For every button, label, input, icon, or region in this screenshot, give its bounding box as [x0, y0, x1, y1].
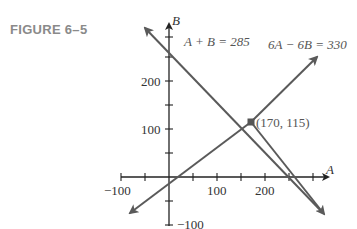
- line-a-plus-b-end: [251, 122, 324, 214]
- x-tick-label-100: 100: [207, 183, 227, 198]
- intersection-label: (170, 115): [256, 115, 310, 130]
- x-tick-label-neg100: −100: [104, 183, 131, 198]
- chart-plot: −100 100 200 A 200 100 −100 B (170, 115)…: [0, 0, 357, 229]
- line1-label: A + B = 285: [183, 34, 250, 49]
- x-axis-label: A: [325, 162, 334, 177]
- x-tick-label-200: 200: [255, 183, 275, 198]
- y-tick-label-neg100: −100: [177, 217, 204, 229]
- line2-label: 6A − 6B = 330: [268, 37, 347, 52]
- y-tick-label-200: 200: [141, 74, 161, 89]
- y-axis-label: B: [172, 13, 180, 28]
- x-axis: −100 100 200 A: [104, 162, 334, 198]
- intersection-point: [248, 119, 255, 126]
- y-tick-label-100: 100: [141, 122, 161, 137]
- line-6a-minus-6b: [251, 57, 317, 122]
